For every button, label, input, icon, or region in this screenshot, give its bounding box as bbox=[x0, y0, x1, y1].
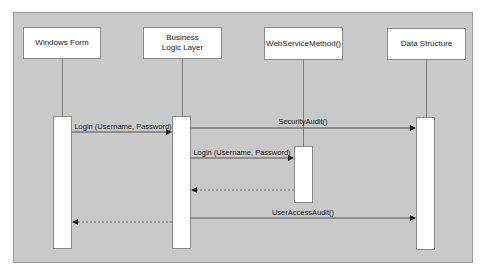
message-security-audit-label: SecurityAudit() bbox=[278, 117, 327, 126]
message-login-1-label: Login (Username, Password) bbox=[74, 122, 171, 131]
message-arrows bbox=[0, 0, 489, 279]
message-user-access-audit-label: UserAccessAudit() bbox=[272, 208, 334, 217]
message-login-2-label: Login (Username, Password) bbox=[193, 148, 290, 157]
